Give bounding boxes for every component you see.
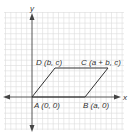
y-axis-label: y <box>29 4 35 13</box>
y-axis-up-arrow-icon <box>30 13 35 20</box>
parallelogram-abcd <box>32 68 108 97</box>
y-axis-down-arrow-icon <box>30 125 35 132</box>
x-axis-label: x <box>122 93 128 102</box>
coordinate-plane-diagram: x y D (b, c) C (a + b, c) A (0, 0) B (a,… <box>0 0 130 136</box>
axes <box>3 13 121 132</box>
vertex-label-d: D (b, c) <box>36 58 63 67</box>
vertex-label-a: A (0, 0) <box>33 101 60 110</box>
x-axis-right-arrow-icon <box>114 95 121 100</box>
vertex-label-c: C (a + b, c) <box>81 58 121 67</box>
x-axis-left-arrow-icon <box>3 95 10 100</box>
vertex-label-b: B (a, 0) <box>83 101 110 110</box>
